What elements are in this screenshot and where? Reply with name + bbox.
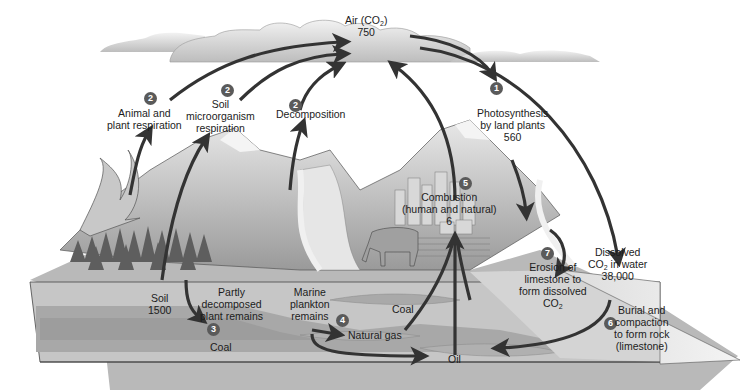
arrow-decomposition xyxy=(300,66,338,110)
fossil-natural-gas: Natural gas xyxy=(348,329,402,341)
process-badge-7: 7 xyxy=(541,247,554,260)
process-combustion: Combustion(human and natural)6 xyxy=(402,191,497,227)
dissolved-co2-value: 38,000 xyxy=(588,270,647,282)
process-burial-compaction: Burial andcompactionto form rock(limesto… xyxy=(614,304,669,352)
process-erosion-of-limestone: Erosion oflimestone toform dissolved CO2 xyxy=(519,261,587,309)
process-badge-2: 2 xyxy=(221,84,234,97)
process-marine-plankton-remains: Marineplanktonremains xyxy=(290,286,330,322)
process-photosynthesis: Photosynthesisby land plants560 xyxy=(477,107,548,143)
process-partly-decomposed-plant-remains: Partlydecomposedplant remains xyxy=(200,286,263,322)
process-badge-2: 2 xyxy=(144,92,157,105)
air-reservoir-label: Air (CO2) 750 xyxy=(345,14,387,38)
fossil-oil: Oil xyxy=(448,353,461,365)
dissolved-co2-reservoir: Dissolved CO2 in water 38,000 xyxy=(588,246,647,282)
carbon-cycle-diagram: Air (CO2) 750 2 Animal andplant respirat… xyxy=(0,0,740,391)
process-badge-1: 1 xyxy=(490,82,503,95)
air-reservoir-value: 750 xyxy=(345,26,387,38)
process-badge-5: 5 xyxy=(459,177,472,190)
process-badge-4: 4 xyxy=(336,314,349,327)
fossil-coal-left: Coal xyxy=(210,341,232,353)
soil-reservoir: Soil1500 xyxy=(148,292,171,316)
soil-reservoir-value: 1500 xyxy=(148,304,171,316)
process-soil-microorganism-respiration: Soilmicroorganismrespiration xyxy=(186,98,255,134)
process-animal-plant-respiration: Animal andplant respiration xyxy=(107,107,182,131)
process-decomposition: Decomposition xyxy=(272,108,345,120)
fossil-coal-right: Coal xyxy=(392,303,414,315)
process-badge-3: 3 xyxy=(207,323,220,336)
